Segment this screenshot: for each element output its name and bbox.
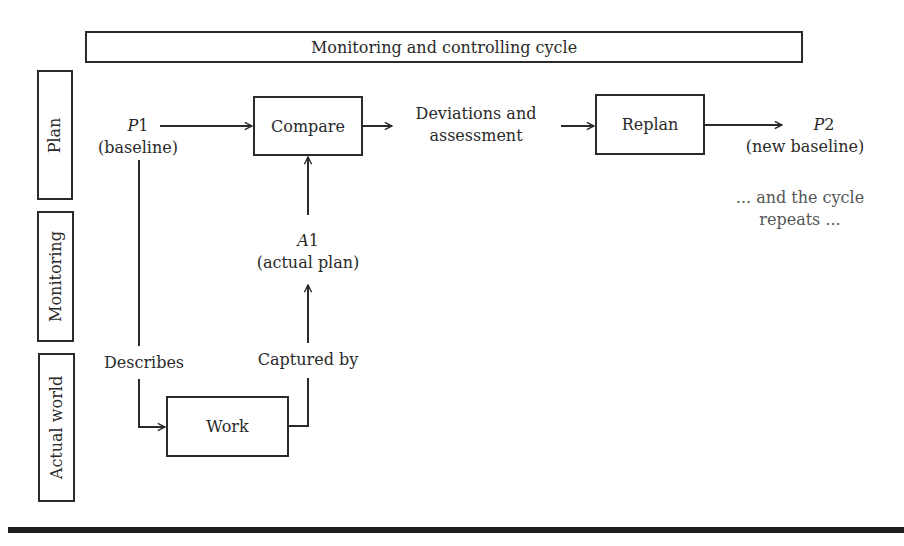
replan-label: Replan xyxy=(622,115,679,134)
work-box: Work xyxy=(166,396,289,457)
a1-caption: (actual plan) xyxy=(238,252,378,274)
p2-index: 2 xyxy=(824,115,834,134)
replan-box: Replan xyxy=(595,94,705,155)
a1-label: A1 (actual plan) xyxy=(238,230,378,274)
deviations-label: Deviations and assessment xyxy=(396,103,556,147)
p1-label: P1 (baseline) xyxy=(88,115,188,159)
line-work-up xyxy=(288,378,308,426)
p1-caption: (baseline) xyxy=(88,137,188,159)
compare-label: Compare xyxy=(271,117,345,136)
connector-lines xyxy=(0,0,904,546)
p1-symbol: P xyxy=(128,116,139,135)
deviations-line1: Deviations and xyxy=(396,103,556,125)
a1-symbol: A xyxy=(297,231,309,250)
arrow-describes-to-work xyxy=(139,379,165,427)
p2-caption: (new baseline) xyxy=(725,136,885,158)
work-label: Work xyxy=(206,417,248,436)
p1-index: 1 xyxy=(138,116,148,135)
repeat-line2: repeats ... xyxy=(720,209,880,231)
compare-box: Compare xyxy=(253,96,363,156)
p2-symbol: P xyxy=(814,115,825,134)
repeat-line1: ... and the cycle xyxy=(720,187,880,209)
a1-index: 1 xyxy=(309,231,319,250)
describes-label: Describes xyxy=(94,352,194,374)
p2-label: P2 (new baseline) xyxy=(725,114,885,158)
bottom-rule xyxy=(8,527,904,533)
cycle-repeats-note: ... and the cycle repeats ... xyxy=(720,187,880,231)
captured-by-label: Captured by xyxy=(248,349,368,371)
deviations-line2: assessment xyxy=(396,125,556,147)
